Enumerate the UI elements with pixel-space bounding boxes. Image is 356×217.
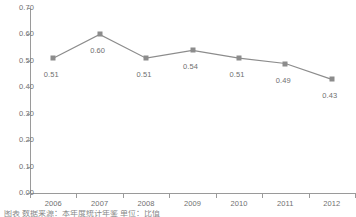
- data-point-label: 0.51: [137, 70, 152, 79]
- data-point-label: 0.60: [90, 46, 105, 55]
- series-line: [0, 0, 356, 217]
- data-point-marker: [283, 61, 288, 66]
- data-point-marker: [329, 77, 334, 82]
- chart-caption-text: 图表 数据来源：本年度统计年鉴 单位：比值: [4, 210, 180, 217]
- data-point-marker: [190, 48, 195, 53]
- data-point-label: 0.51: [44, 70, 59, 79]
- data-point-label: 0.43: [322, 91, 337, 100]
- data-point-marker: [97, 32, 102, 37]
- line-chart: 0.700.600.500.400.300.200.100.00 2006200…: [0, 0, 356, 217]
- data-point-label: 0.54: [183, 62, 198, 71]
- data-point-marker: [51, 56, 56, 61]
- chart-caption: 图表 数据来源：本年度统计年鉴 单位：比值: [4, 210, 180, 217]
- data-point-marker: [144, 56, 149, 61]
- data-point-marker: [236, 56, 241, 61]
- data-point-label: 0.51: [229, 70, 244, 79]
- data-point-label: 0.49: [276, 76, 291, 85]
